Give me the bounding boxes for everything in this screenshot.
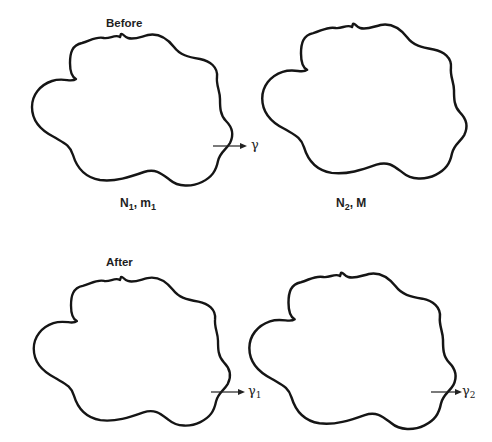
gamma-subscript: 2 — [470, 390, 476, 400]
before-label: Before — [106, 17, 142, 29]
system-2-before-outline — [262, 24, 466, 179]
system-1-before-outline — [32, 34, 232, 186]
system-2-after-outline — [249, 273, 455, 429]
after-label: After — [106, 256, 133, 268]
system-1-caption: N1, m1 — [120, 196, 156, 212]
gamma-symbol: γ — [251, 137, 259, 152]
system-2-caption: N2, M — [336, 196, 366, 212]
gamma2-label: γ2 — [462, 383, 476, 400]
m-symbol: m — [140, 196, 151, 210]
n-symbol: N — [120, 196, 129, 210]
system-1-after-outline — [34, 277, 230, 426]
gamma-symbol: γ — [462, 383, 470, 398]
gamma1-label: γ1 — [248, 383, 262, 400]
m-symbol: M — [356, 196, 366, 210]
diagram-canvas — [0, 0, 492, 442]
m-subscript: 1 — [151, 202, 156, 212]
gamma-symbol: γ — [248, 383, 256, 398]
gamma1-arrow — [211, 389, 245, 395]
n-symbol: N — [336, 196, 345, 210]
gamma-subscript: 1 — [256, 390, 262, 400]
gamma-label: γ — [251, 137, 259, 152]
